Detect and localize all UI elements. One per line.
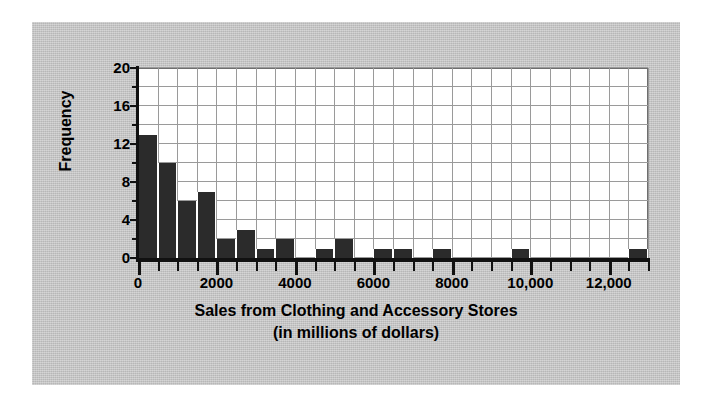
y-axis-tick-major <box>130 67 138 69</box>
x-axis-title: Sales from Clothing and Accessory Stores… <box>32 300 680 343</box>
x-axis-tick-minor <box>275 262 277 271</box>
x-axis-tick-minor <box>628 262 630 271</box>
x-axis-tick-minor <box>197 262 199 271</box>
y-axis-tick-label: 20 <box>90 60 130 75</box>
histogram-bar <box>256 249 276 259</box>
x-axis-tick-minor <box>177 262 179 271</box>
gridline-vertical <box>648 68 649 258</box>
histogram-bar <box>197 192 217 259</box>
histogram-bar <box>275 239 295 258</box>
y-axis-tick-label: 8 <box>90 174 130 189</box>
histogram-bar <box>158 163 178 258</box>
figure-panel: 048121620 0200040006000800010,00012,000 … <box>32 22 680 385</box>
histogram-bar <box>216 239 236 258</box>
y-axis-tick-major <box>130 143 138 145</box>
x-axis-tick-minor <box>570 262 572 271</box>
x-axis-tick-label: 12,000 <box>586 274 632 291</box>
histogram-bar <box>393 249 413 259</box>
x-axis-tick-label: 2000 <box>200 274 233 291</box>
y-axis-title: Frequency <box>57 61 75 201</box>
y-axis-tick-major <box>130 105 138 107</box>
y-axis-tick-label: 12 <box>90 136 130 151</box>
y-axis-tick-minor <box>132 200 138 202</box>
histogram-bar <box>138 135 158 259</box>
x-axis-tick-minor <box>413 262 415 271</box>
x-axis-tick-minor <box>158 262 160 271</box>
x-axis-tick-minor <box>589 262 591 271</box>
y-axis-tick-minor <box>132 86 138 88</box>
histogram-bar <box>511 249 531 259</box>
x-axis-tick-minor <box>315 262 317 271</box>
x-axis-tick-label: 6000 <box>357 274 390 291</box>
x-axis-title-line2: (in millions of dollars) <box>32 322 680 344</box>
y-axis-tick-label: 4 <box>90 212 130 227</box>
x-axis-title-line1: Sales from Clothing and Accessory Stores <box>32 300 680 322</box>
x-axis-tick-minor <box>256 262 258 271</box>
x-axis-tick-minor <box>432 262 434 271</box>
x-axis-tick-label: 8000 <box>435 274 468 291</box>
histogram-bar <box>432 249 452 259</box>
y-axis-tick-minor <box>132 124 138 126</box>
y-axis-tick-minor <box>132 238 138 240</box>
histogram-bar <box>315 249 335 259</box>
y-axis-tick-major <box>130 257 138 259</box>
x-axis-tick-minor <box>354 262 356 271</box>
y-axis-tick-major <box>130 181 138 183</box>
x-axis-tick-minor <box>393 262 395 271</box>
x-axis-tick-minor <box>471 262 473 271</box>
y-axis-tick-label: 16 <box>90 98 130 113</box>
x-axis-tick-minor <box>334 262 336 271</box>
x-axis-tick-label: 10,000 <box>507 274 553 291</box>
x-axis-tick-label: 4000 <box>278 274 311 291</box>
y-axis-tick-minor <box>132 162 138 164</box>
x-axis-tick-minor <box>236 262 238 271</box>
x-axis-tick-label: 0 <box>134 274 142 291</box>
x-axis-tick-minor <box>550 262 552 271</box>
plot-wrap <box>138 68 648 258</box>
y-axis-tick-label: 0 <box>90 250 130 265</box>
histogram-bar <box>177 201 197 258</box>
histogram-bars <box>138 68 648 258</box>
x-axis-tick-minor <box>648 262 650 271</box>
x-axis-tick-minor <box>511 262 513 271</box>
histogram-bar <box>334 239 354 258</box>
histogram-bar <box>236 230 256 259</box>
x-axis-tick-minor <box>491 262 493 271</box>
y-axis-tick-major <box>130 219 138 221</box>
histogram-bar <box>373 249 393 259</box>
histogram-bar <box>628 249 648 259</box>
